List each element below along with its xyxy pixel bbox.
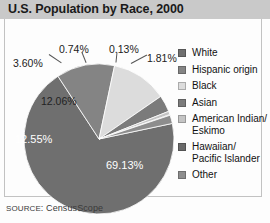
- legend-item[interactable]: White: [178, 47, 270, 59]
- title-bar: U.S. Population by Race, 2000: [0, 0, 270, 19]
- slice-label-other: 1.81%: [147, 52, 177, 64]
- legend-item[interactable]: Hispanic origin: [178, 64, 270, 76]
- legend-swatch-icon: [178, 99, 186, 107]
- source-prefix: SOURCE: [6, 204, 41, 213]
- pie-chart-figure: U.S. Population by Race, 2000 69.13% 12.…: [0, 0, 270, 223]
- chart-title: U.S. Population by Race, 2000: [8, 2, 184, 16]
- slice-label-aian: 0.74%: [59, 43, 89, 55]
- legend-item-label: American Indian/Eskimo: [192, 113, 267, 136]
- legend-item-label: White: [192, 47, 218, 59]
- legend-item-label: Asian: [192, 97, 217, 109]
- legend-swatch-icon: [178, 143, 186, 151]
- legend-item[interactable]: Black: [178, 80, 270, 92]
- source-text: : CensusScope: [41, 203, 103, 213]
- legend-item-label: Other: [192, 169, 217, 181]
- legend-item[interactable]: Other: [178, 169, 270, 181]
- legend: WhiteHispanic originBlackAsianAmerican I…: [178, 47, 270, 186]
- legend-swatch-icon: [178, 82, 186, 90]
- slice-label-asian: 3.60%: [13, 57, 43, 69]
- leader-line-asian: [49, 54, 62, 63]
- source-note: SOURCE: CensusScope: [6, 203, 103, 213]
- legend-swatch-icon: [178, 66, 186, 74]
- legend-item-label: Hawaiian/Pacific Islander: [192, 141, 260, 164]
- legend-swatch-icon: [178, 171, 186, 179]
- legend-item-label: Hispanic origin: [192, 64, 258, 76]
- slice-label-hispanic: 12.55%: [15, 133, 52, 145]
- slice-label-white: 69.13%: [106, 159, 143, 171]
- legend-item[interactable]: American Indian/Eskimo: [178, 113, 270, 136]
- legend-item-label: Black: [192, 80, 216, 92]
- plot-frame: 69.13% 12.55% 12.06% 3.60% 0.74% 0.13% 1…: [4, 19, 262, 197]
- slice-label-nhpi: 0.13%: [109, 43, 139, 55]
- legend-item[interactable]: Asian: [178, 97, 270, 109]
- legend-swatch-icon: [178, 115, 186, 123]
- legend-swatch-icon: [178, 49, 186, 57]
- slice-label-black: 12.06%: [41, 95, 77, 107]
- legend-item[interactable]: Hawaiian/Pacific Islander: [178, 141, 270, 164]
